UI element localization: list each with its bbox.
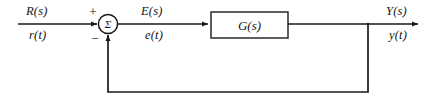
summing-junction-sigma-glyph: Σ [104, 18, 112, 30]
input-laplace-label: R(s) [26, 4, 48, 19]
output-laplace-label: Y(s) [386, 4, 407, 19]
plant-block-label: G(s) [238, 18, 261, 33]
block-diagram-svg: Σ G(s) + − [0, 0, 438, 100]
positive-sign-label: + [89, 4, 96, 19]
block-diagram-canvas: Σ G(s) + − R(s) r(t) E(s) e(t) Y(s) y(t) [0, 0, 438, 100]
error-time-label: e(t) [145, 28, 163, 43]
feedback-tap-point [367, 23, 369, 25]
negative-sign-label: − [91, 31, 98, 46]
error-laplace-label: E(s) [141, 4, 163, 19]
output-time-label: y(t) [389, 28, 407, 43]
input-time-label: r(t) [29, 28, 46, 43]
